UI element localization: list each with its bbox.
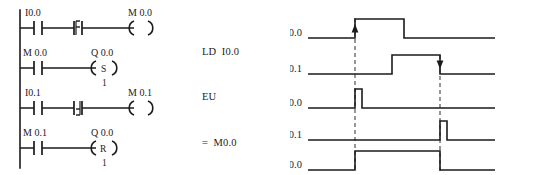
coil-m00-label: M 0.0 <box>128 7 152 18</box>
signal-label-m01: M0.1 <box>290 129 302 140</box>
waveform-i00 <box>308 19 495 38</box>
ladder-diagram-panel: I0.0 M 0.0 <box>0 0 180 175</box>
edge-markers <box>352 24 444 69</box>
timing-diagram-svg: I0.0 I0.1 M0.0 M0.1 Q0.0 <box>290 0 534 175</box>
contact-m00-label: M 0.0 <box>23 47 47 58</box>
instruction-list: LD I0.0 EU = M0.0 LD M0.0 S Q0.0, 1 LD I… <box>202 14 250 175</box>
waveform-i01 <box>308 55 495 74</box>
waveform-q00 <box>308 151 495 170</box>
contact-i00 <box>34 21 42 35</box>
contact-i01-label: I0.1 <box>25 87 41 98</box>
instruction-list-panel: LD I0.0 EU = M0.0 LD M0.0 S Q0.0, 1 LD I… <box>180 0 290 175</box>
coil-q00-reset-inner: R <box>100 144 107 154</box>
coil-q00-set-operand: 1 <box>102 78 107 88</box>
timing-diagram-panel: I0.0 I0.1 M0.0 M0.1 Q0.0 <box>290 0 534 175</box>
coil-q00-reset-operand: 1 <box>102 158 107 168</box>
cursor-lines <box>355 18 440 172</box>
waveform-m00 <box>308 89 495 108</box>
contact-m01-label: M 0.1 <box>23 127 47 138</box>
rung-2: M 0.0 Q 0.0 S 1 <box>20 47 117 88</box>
coil-q00-reset-label: Q 0.0 <box>91 127 113 138</box>
contact-positive-transition <box>74 21 82 35</box>
plc-figure: I0.0 M 0.0 <box>0 0 534 175</box>
rung-1: I0.0 M 0.0 <box>20 7 153 35</box>
signal-label-i01: I0.1 <box>290 63 302 74</box>
instruction-line: EU <box>202 89 250 104</box>
rung-4: M 0.1 Q 0.0 R 1 <box>20 127 117 168</box>
signal-label-m00: M0.0 <box>290 97 302 108</box>
contact-i00-label: I0.0 <box>25 7 41 18</box>
contact-m01 <box>34 141 42 155</box>
arrow-down-icon <box>437 61 444 70</box>
coil-q00-set-label: Q 0.0 <box>91 47 113 58</box>
contact-m00 <box>34 61 42 75</box>
instruction-line: = M0.0 <box>202 135 250 150</box>
rung-3: I0.1 M 0.1 <box>20 87 153 115</box>
coil-q00-set-inner: S <box>101 64 106 74</box>
instruction-line: LD I0.0 <box>202 44 250 59</box>
signal-label-i00: I0.0 <box>290 27 302 38</box>
arrow-up-icon <box>352 24 359 33</box>
ladder-diagram-svg: I0.0 M 0.0 <box>0 0 180 175</box>
signal-label-q00: Q0.0 <box>290 159 302 170</box>
contact-i01 <box>34 101 42 115</box>
waveform-m01 <box>308 121 495 140</box>
contact-negative-transition <box>74 101 82 115</box>
coil-m01-label: M 0.1 <box>128 87 152 98</box>
